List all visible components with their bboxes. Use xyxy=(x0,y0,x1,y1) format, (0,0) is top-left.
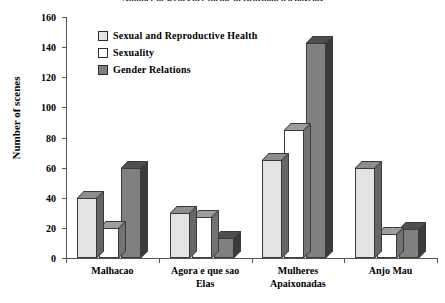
legend-swatch-icon xyxy=(98,65,108,75)
y-axis-tick-label: 20 xyxy=(46,222,56,233)
bar-chart: Number of scenes per theme in Brazilian … xyxy=(0,0,445,303)
y-axis-tick-label: 140 xyxy=(41,42,56,53)
y-axis-tick-label: 160 xyxy=(41,12,56,23)
x-axis-tick xyxy=(344,258,345,263)
bar-side-face xyxy=(326,36,333,258)
y-axis-tick: 140 xyxy=(62,47,66,48)
y-axis-line xyxy=(66,17,67,258)
bar-side-face xyxy=(375,161,382,258)
bar-side-face xyxy=(304,123,311,258)
bar-side-face xyxy=(282,153,289,258)
y-axis-tick-label: 120 xyxy=(41,72,56,83)
x-axis-label-2: Agora e que sao Elas xyxy=(159,264,252,290)
legend-label: Sexuality xyxy=(113,47,154,58)
chart-title: Number of scenes per theme in Brazilian … xyxy=(0,0,445,1)
y-axis-tick: 40 xyxy=(62,198,66,199)
legend-item-1[interactable]: Sexual and Reproductive Health xyxy=(98,27,257,44)
bar-side-face xyxy=(97,191,104,258)
bar-sexual-and-reproductive-health-1 xyxy=(77,198,97,258)
bar-side-face xyxy=(190,206,197,258)
x-axis-label-4: Anjo Mau xyxy=(344,264,437,277)
legend-swatch-icon xyxy=(98,48,108,58)
x-axis-tick xyxy=(66,258,67,263)
y-axis-tick: 160 xyxy=(62,17,66,18)
bar-front-face xyxy=(262,160,282,258)
y-axis-tick: 80 xyxy=(62,138,66,139)
legend-label: Sexual and Reproductive Health xyxy=(113,30,257,41)
y-axis-tick: 100 xyxy=(62,107,66,108)
y-axis-tick-label: 40 xyxy=(46,192,56,203)
bar-side-face xyxy=(141,161,148,258)
chart-legend: Sexual and Reproductive HealthSexualityG… xyxy=(98,27,257,78)
y-axis-tick: 120 xyxy=(62,77,66,78)
bar-sexual-and-reproductive-health-2 xyxy=(170,213,190,258)
y-axis-title: Number of scenes xyxy=(10,48,22,188)
legend-item-2[interactable]: Sexuality xyxy=(98,44,257,61)
y-axis-tick-label: 60 xyxy=(46,162,56,173)
bar-sexual-and-reproductive-health-4 xyxy=(355,168,375,258)
legend-label: Gender Relations xyxy=(113,64,191,75)
legend-swatch-icon xyxy=(98,31,108,41)
y-axis-tick-label: 80 xyxy=(46,132,56,143)
y-axis-tick: 20 xyxy=(62,228,66,229)
bar-side-face xyxy=(212,210,219,258)
x-axis-label-3: Mulheres Apaixonadas xyxy=(252,264,345,290)
x-axis-label-1: Malhacao xyxy=(66,264,159,277)
bar-front-face xyxy=(77,198,97,258)
y-axis-tick-label: 0 xyxy=(51,253,56,264)
y-axis-tick: 60 xyxy=(62,168,66,169)
bar-sexual-and-reproductive-health-3 xyxy=(262,160,282,258)
legend-item-3[interactable]: Gender Relations xyxy=(98,61,257,78)
y-axis-tick-label: 100 xyxy=(41,102,56,113)
x-axis-tick xyxy=(252,258,253,263)
bar-front-face xyxy=(170,213,190,258)
bar-front-face xyxy=(355,168,375,258)
x-axis-tick xyxy=(159,258,160,263)
x-axis-tick xyxy=(437,258,438,263)
